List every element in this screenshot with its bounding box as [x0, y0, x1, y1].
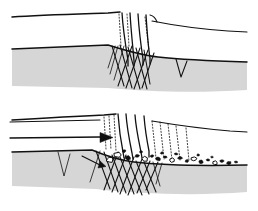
lower-dotted-fracture-8	[186, 128, 189, 161]
breccia-clast	[163, 156, 167, 158]
breccia-clast	[170, 158, 174, 162]
upper-ground-surface-left	[12, 12, 120, 17]
lower-panel	[10, 114, 247, 195]
lower-fissure-4	[144, 116, 149, 157]
breccia-clast	[177, 156, 182, 159]
breccia-clast	[135, 154, 139, 157]
breccia-clast	[213, 161, 217, 165]
breccia-clast	[142, 156, 148, 161]
upper-panel	[12, 12, 247, 92]
arrow-head	[100, 133, 113, 143]
upper-ground-surface-right	[152, 21, 247, 32]
breccia-clast	[156, 157, 161, 161]
lower-ground-surface-left	[12, 114, 116, 120]
arrow-shaft	[10, 137, 100, 138]
upper-dotted-fracture-1	[119, 14, 121, 46]
breccia-clast	[160, 152, 163, 155]
breccia-clast	[191, 157, 197, 161]
breccia-clast	[123, 150, 126, 153]
breccia-clast	[150, 155, 154, 158]
breccia-clast	[126, 156, 131, 161]
lower-dotted-fracture-3	[114, 115, 116, 151]
upper-dotted-fracture-2	[127, 14, 129, 46]
lower-upper-guide-line	[10, 120, 100, 122]
breccia-clast	[199, 160, 203, 164]
lower-dotted-fracture-2	[109, 116, 111, 150]
breccia-clast	[220, 160, 225, 163]
breccia-clast	[211, 156, 214, 158]
transport-direction-arrow	[10, 133, 113, 143]
lower-fissure-2	[126, 114, 133, 159]
breccia-clast	[185, 159, 189, 162]
lower-dotted-fracture-4	[152, 121, 156, 158]
breccia-clast	[140, 151, 143, 153]
breccia-clast	[114, 152, 121, 157]
breccia-clast	[197, 154, 200, 156]
lower-dotted-fracture-6	[168, 124, 172, 160]
breccia-clast	[234, 161, 237, 163]
breccia-clast	[174, 153, 177, 155]
lower-dotted-fracture-1	[104, 117, 106, 149]
breccia-clast	[206, 159, 210, 161]
lower-fissure-group	[118, 114, 149, 159]
lower-ground-surface-right	[152, 121, 247, 132]
breccia-clast	[226, 162, 231, 165]
figure-root: Graben and conjugate fracture developmen…	[0, 0, 258, 211]
geological-cross-section-figure: Graben and conjugate fracture developmen…	[0, 0, 258, 211]
